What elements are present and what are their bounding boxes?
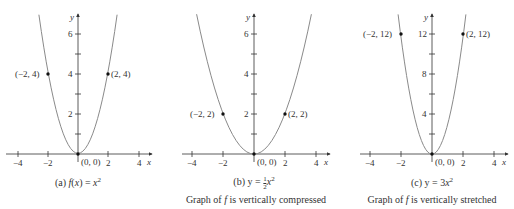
y-tick-label: 2	[68, 109, 73, 119]
caption-exponent: 2	[98, 176, 102, 184]
x-tick-label: 4	[137, 158, 142, 168]
y-tick-label: 4	[68, 69, 73, 79]
y-tick-label: 8	[422, 69, 427, 79]
x-tick-label: 2	[283, 158, 288, 168]
x-axis-label: x	[146, 157, 151, 167]
y-axis-label: y	[69, 12, 74, 22]
origin-marker	[430, 152, 433, 155]
subcaption-b: Graph of f is vertically compressed	[186, 194, 326, 205]
caption-a: (a) f(x) = x2	[55, 176, 101, 188]
origin-marker	[76, 152, 79, 155]
caption-exponent: 2	[450, 176, 454, 184]
y-tick-label: 2	[244, 109, 249, 119]
graph-a: (−2, 4) (2, 4) (0, 0) −4 −2 2 4 x 2 4 6 …	[6, 12, 152, 168]
x-axis-label: x	[323, 157, 328, 167]
point-marker	[461, 32, 464, 35]
caption-prefix: (b) y =	[233, 176, 263, 187]
caption-b: (b) y = 12x2	[233, 175, 274, 191]
caption-prefix: (a)	[55, 177, 69, 188]
point-label: (−2, 4)	[15, 69, 40, 79]
subcaption-text: Graph of	[186, 194, 224, 205]
origin-label: (0, 0)	[435, 157, 455, 167]
point-label: (−2, 12)	[363, 29, 392, 39]
origin-marker	[252, 152, 255, 155]
y-axis-label: y	[423, 12, 428, 22]
x-tick-label: −4	[13, 158, 23, 168]
graph-b: (−2, 2) (2, 2) (0, 0) −4 −2 2 4 x 2 4 6 …	[182, 12, 330, 168]
subcaption-c: Graph of f is vertically stretched	[367, 194, 496, 205]
point-label: (2, 4)	[111, 69, 131, 79]
caption-eq: ) =	[79, 177, 93, 188]
x-tick-label: 4	[314, 158, 319, 168]
graph-c: (−2, 12) (2, 12) (0, 0) −4 −2 2 4 x 4 8 …	[360, 12, 508, 168]
x-tick-label: 2	[461, 158, 466, 168]
origin-label: (0, 0)	[81, 157, 101, 167]
point-marker	[106, 72, 109, 75]
x-tick-label: −2	[218, 158, 228, 168]
origin-label: (0, 0)	[257, 157, 277, 167]
x-tick-label: −4	[365, 158, 375, 168]
subcaption-text: is vertically stretched	[409, 194, 497, 205]
y-axis-label: y	[245, 12, 250, 22]
y-tick-label: 6	[68, 29, 73, 39]
point-marker	[283, 112, 286, 115]
caption-prefix: (c) y = 3	[411, 177, 445, 188]
x-tick-label: 2	[106, 158, 111, 168]
y-tick-label: 12	[418, 29, 427, 39]
point-label: (−2, 2)	[190, 109, 215, 119]
y-tick-label: 4	[422, 109, 427, 119]
point-marker	[46, 72, 49, 75]
point-label: (2, 12)	[466, 29, 490, 39]
caption-exponent: 2	[271, 175, 275, 183]
point-label: (2, 2)	[288, 109, 308, 119]
caption-c: (c) y = 3x2	[411, 176, 453, 188]
x-tick-label: −2	[43, 158, 53, 168]
y-tick-label: 6	[244, 29, 249, 39]
point-marker	[221, 112, 224, 115]
x-axis-label: x	[501, 157, 506, 167]
y-tick-label: 4	[244, 69, 249, 79]
x-tick-label: 4	[492, 158, 497, 168]
x-tick-label: −2	[396, 158, 406, 168]
x-tick-label: −4	[187, 158, 197, 168]
subcaption-text: Graph of	[367, 194, 405, 205]
point-marker	[399, 32, 402, 35]
subcaption-text: is vertically compressed	[227, 194, 326, 205]
